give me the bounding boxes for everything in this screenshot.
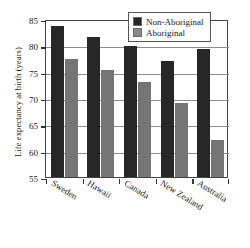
bar xyxy=(161,61,174,177)
bar xyxy=(51,26,64,177)
x-axis-labels: SwedenHawaiiCanadaNew ZealandAustralia xyxy=(45,178,228,248)
y-tick-label: 55 xyxy=(5,174,38,184)
chart-legend: Non-Aboriginal Aboriginal xyxy=(128,12,211,42)
plot-area: 85807570656055 xyxy=(45,20,228,178)
legend-swatch-icon xyxy=(133,28,142,37)
y-tick-label: 85 xyxy=(5,16,38,26)
x-axis-label: Hawaii xyxy=(86,178,113,200)
bar xyxy=(124,46,137,177)
legend-swatch-icon xyxy=(133,17,142,26)
bar-group xyxy=(156,21,193,177)
legend-label: Aboriginal xyxy=(146,28,185,38)
bar xyxy=(101,70,114,177)
bar xyxy=(211,140,224,177)
y-tick-label: 80 xyxy=(5,42,38,52)
y-tick-label: 60 xyxy=(5,148,38,158)
bar xyxy=(87,37,100,177)
bar-group xyxy=(46,21,83,177)
y-tick-label: 65 xyxy=(5,121,38,131)
y-tick-label: 70 xyxy=(5,95,38,105)
bar-group xyxy=(119,21,156,177)
y-tick-label: 75 xyxy=(5,69,38,79)
bar-series-container xyxy=(46,21,227,177)
bar-group xyxy=(83,21,120,177)
bar-group xyxy=(192,21,229,177)
legend-label: Non-Aboriginal xyxy=(146,17,204,27)
bar xyxy=(65,59,78,178)
legend-item-non-aboriginal: Non-Aboriginal xyxy=(133,16,204,27)
x-tick-mark xyxy=(228,179,229,184)
bar xyxy=(138,82,151,177)
bar-chart: Life expectancy at birth (years) 8580757… xyxy=(0,0,250,248)
legend-item-aboriginal: Aboriginal xyxy=(133,27,204,38)
bar xyxy=(175,103,188,177)
x-axis-label: Canada xyxy=(122,178,150,201)
x-axis-label: Sweden xyxy=(49,178,78,202)
bar xyxy=(197,49,210,178)
